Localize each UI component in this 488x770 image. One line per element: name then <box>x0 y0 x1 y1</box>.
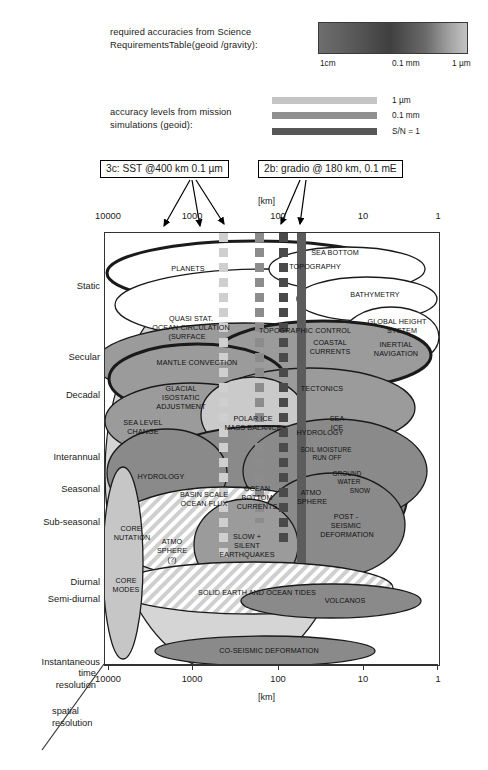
x-tick-bottom-100: 100 <box>248 674 308 684</box>
x-axis-unit-bottom: [km] <box>258 692 275 702</box>
spatial-resolution-label: spatial resolution <box>52 706 148 729</box>
x-tick-bottom-1: 1 <box>408 674 468 684</box>
x-tick-bottom-10: 10 <box>333 674 393 684</box>
x-axis-ticks-bottom <box>0 0 488 770</box>
spatial-resolution-line1: spatial <box>52 706 148 718</box>
time-resolution-line2: resolution <box>0 680 96 692</box>
x-tick-bottom-1000: 1000 <box>162 674 222 684</box>
spatial-resolution-line2: resolution <box>52 718 148 730</box>
time-resolution-line1: time <box>0 668 96 680</box>
time-resolution-label: time resolution <box>0 668 96 691</box>
